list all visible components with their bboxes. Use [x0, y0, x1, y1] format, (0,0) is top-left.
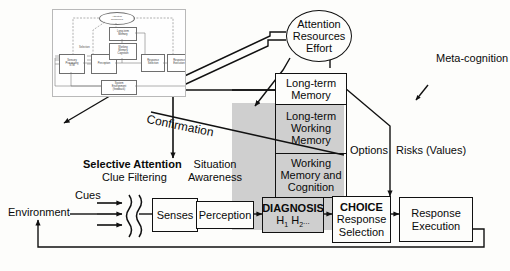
choice-title: CHOICE [340, 201, 383, 213]
label-cues: Cues [75, 190, 101, 202]
diagnosis-h1-sub: 1 [284, 221, 288, 228]
diagnosis-title: DIAGNOSIS [262, 202, 324, 214]
ellipse-line1: Attention [297, 18, 340, 30]
wmc-line1: Working [291, 157, 331, 169]
box-working-memory-cognition: WorkingMemory andCognition [275, 153, 347, 198]
label-clue-filtering: Clue Filtering [102, 172, 167, 184]
ltwm-line2: Working [291, 122, 331, 134]
box-long-term-memory: Long-termMemory [275, 73, 347, 105]
label-selective-attention: Selective Attention [83, 159, 182, 171]
box-long-term-memory-label: Long-termMemory [286, 77, 336, 101]
box-response-execution: Response Execution [399, 197, 473, 242]
ellipse-attention-resources-effort: Attention Resources Effort [286, 10, 352, 62]
box-diagnosis: DIAGNOSIS H1 H2... [262, 197, 324, 233]
label-risks-values: Risks (Values) [396, 145, 466, 157]
choice-line3: Selection [339, 226, 384, 238]
ltwm-line3: Memory [291, 134, 331, 146]
response-exec-line1: Response [411, 207, 461, 219]
diagram-canvas: AttentionResources SensoryProcessingSTM … [0, 0, 510, 271]
box-perception-label: Perception [199, 209, 252, 221]
label-options: Options [350, 145, 388, 157]
box-choice-response-selection: CHOICE Response Selection [332, 196, 391, 243]
box-perception: Perception [196, 201, 254, 229]
wmc-line2: Memory and [280, 169, 341, 181]
diagnosis-ellipsis: ... [303, 217, 310, 226]
wmc-line3: Cognition [288, 181, 334, 193]
box-long-term-working-memory: Long-termWorkingMemory [275, 103, 347, 154]
label-meta-cognition: Meta-cognition [436, 53, 508, 65]
label-environment: Environment [8, 207, 70, 219]
label-awareness: Awareness [185, 172, 245, 184]
response-exec-line2: Execution [412, 220, 460, 232]
ellipse-line3: Effort [306, 42, 332, 54]
label-situation: Situation [185, 159, 245, 171]
diagnosis-h2: H [291, 214, 299, 226]
ellipse-line2: Resources [293, 30, 346, 42]
inset-connectors [53, 10, 185, 96]
box-senses-label: Senses [157, 209, 194, 221]
box-senses: Senses [152, 198, 198, 232]
diagnosis-hypotheses: H1 H2... [276, 214, 309, 226]
wickens-model-inset: AttentionResources SensoryProcessingSTM … [52, 9, 186, 97]
choice-line2: Response [337, 213, 387, 225]
ltwm-line1: Long-term [286, 110, 336, 122]
